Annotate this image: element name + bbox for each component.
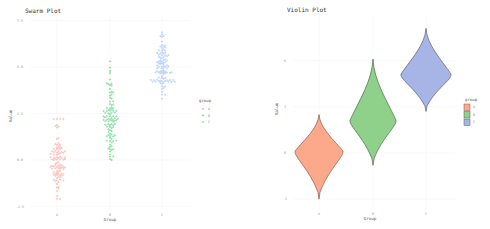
swarm-legend-entry: A	[208, 107, 210, 111]
swarm-y-tick: 0.0	[17, 158, 23, 162]
swarm-y-axis-label: Value	[8, 109, 13, 122]
violin-a	[295, 115, 343, 200]
swarm-y-tick: 5.0	[17, 65, 23, 69]
swarm-points	[50, 32, 176, 200]
violin-legend-title: group	[465, 97, 478, 102]
violin-legend-entry: C	[473, 120, 475, 124]
swarm-y-axis-ticks: 7.55.02.50.0-2.5	[16, 19, 24, 209]
violin-x-tick: A	[318, 212, 320, 216]
swarm-y-tick: 2.5	[17, 112, 23, 116]
violin-y-tick: -3	[283, 197, 287, 201]
swarm-legend-entry: B	[208, 114, 210, 118]
violin-b	[350, 59, 396, 165]
swarm-x-axis-label: Group	[104, 217, 117, 222]
violin-c	[401, 28, 451, 111]
swarm-legend-title: group	[199, 98, 212, 103]
violin-y-tick: 6	[284, 59, 286, 63]
violin-y-axis-label: Value	[274, 102, 279, 115]
swarm-legend-entry: C	[208, 120, 210, 124]
swarm-y-tick: 7.5	[17, 19, 23, 23]
violin-plot-title: Violin Plot	[287, 6, 327, 13]
violin-legend: group ABC	[464, 97, 478, 126]
violin-plot-panel: Violin Plot 630-3 Value ABC Group group …	[245, 0, 490, 229]
violin-y-tick: 3	[284, 105, 286, 109]
swarm-x-tick: C	[161, 213, 163, 217]
swarm-legend: group ABC	[199, 98, 212, 124]
swarm-y-tick: -2.5	[16, 205, 24, 209]
swarm-plot-chart: Swarm Plot 7.55.02.50.0-2.5 Value ABC Gr…	[0, 0, 245, 229]
violin-y-tick: 0	[284, 151, 286, 155]
violin-y-axis-ticks: 630-3	[283, 59, 287, 202]
violin-legend-entry: B	[473, 113, 475, 117]
violin-plot-chart: Violin Plot 630-3 Value ABC Group group …	[245, 0, 490, 229]
swarm-x-tick: A	[56, 213, 58, 217]
violin-legend-entry: A	[473, 105, 475, 109]
violin-x-tick: C	[425, 212, 427, 216]
violin-x-axis-label: Group	[364, 216, 377, 221]
swarm-plot-panel: Swarm Plot 7.55.02.50.0-2.5 Value ABC Gr…	[0, 0, 245, 229]
swarm-plot-title: Swarm Plot	[25, 7, 62, 14]
